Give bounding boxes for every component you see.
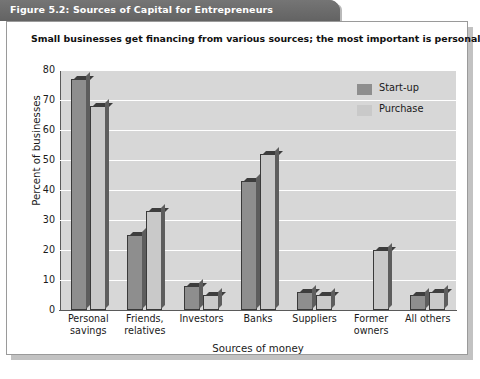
legend-item: Start-up	[357, 82, 453, 98]
bar-top-face	[431, 289, 452, 293]
x-axis-line	[59, 310, 457, 311]
bar-startup	[410, 295, 426, 310]
y-tick-label: 30	[3, 214, 55, 225]
bar-side-face	[388, 243, 392, 309]
bar-top-face	[73, 76, 94, 80]
y-tick-label: 40	[3, 184, 55, 195]
y-tick-label: 50	[3, 154, 55, 165]
bar-side-face	[275, 147, 279, 309]
bar-startup	[71, 79, 87, 310]
bar-purchase	[316, 295, 332, 310]
y-tick-label: 70	[3, 94, 55, 105]
x-tick-label-line: relatives	[109, 325, 182, 337]
bar-top-face	[148, 208, 169, 212]
bar-purchase	[429, 292, 445, 310]
x-tick-label-line: All others	[391, 313, 464, 325]
bar-purchase	[90, 106, 106, 310]
bar-top-face	[205, 292, 226, 296]
x-tick-label: All others	[391, 313, 464, 325]
bar-top-face	[262, 151, 283, 155]
bar-side-face	[161, 204, 165, 309]
bar-top-face	[186, 283, 207, 287]
figure-container: Figure 5.2: Sources of Capital for Entre…	[0, 0, 480, 379]
x-tick-label-line: owners	[335, 325, 408, 337]
legend-swatch	[357, 105, 372, 116]
gridline	[60, 70, 456, 71]
bar-side-face	[331, 288, 335, 309]
panel-shadow-right	[468, 27, 473, 360]
chart-legend: Start-upPurchase	[357, 82, 453, 124]
bar-startup	[127, 235, 143, 310]
y-tick-label: 0	[3, 304, 55, 315]
bar-purchase	[203, 295, 219, 310]
y-tick-label: 20	[3, 244, 55, 255]
figure-subtitle: Small businesses get financing from vari…	[31, 33, 451, 44]
bar-startup	[184, 286, 200, 310]
x-axis-title: Sources of money	[60, 343, 456, 354]
gridline	[60, 130, 456, 131]
gridline	[60, 160, 456, 161]
bar-top-face	[318, 292, 339, 296]
bar-purchase	[146, 211, 162, 310]
legend-swatch	[357, 84, 372, 95]
bar-purchase	[373, 250, 389, 310]
y-tick-label: 10	[3, 274, 55, 285]
legend-label: Start-up	[379, 82, 419, 93]
bar-startup	[297, 292, 313, 310]
y-tick-label: 60	[3, 124, 55, 135]
bar-top-face	[92, 103, 113, 107]
bar-side-face	[218, 288, 222, 309]
legend-label: Purchase	[379, 103, 424, 114]
bar-top-face	[299, 289, 320, 293]
bar-side-face	[105, 99, 109, 309]
y-axis-tick-labels: 01020304050607080	[0, 70, 55, 310]
bar-side-face	[444, 285, 448, 309]
y-tick-label: 80	[3, 64, 55, 75]
bar-top-face	[375, 247, 396, 251]
bar-startup	[241, 181, 257, 310]
bar-purchase	[260, 154, 276, 310]
figure-title-bar: Figure 5.2: Sources of Capital for Entre…	[0, 0, 340, 21]
legend-item: Purchase	[357, 103, 453, 119]
figure-title: Figure 5.2: Sources of Capital for Entre…	[10, 4, 273, 15]
panel-shadow-bottom	[11, 355, 473, 360]
